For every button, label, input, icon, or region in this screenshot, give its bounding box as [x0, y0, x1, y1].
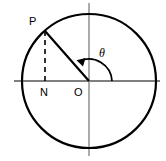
angle-arrowhead	[77, 58, 86, 67]
label-angle-theta: θ	[99, 46, 105, 60]
label-origin-o: O	[74, 86, 83, 98]
angle-arc	[80, 59, 113, 81]
unit-circle-diagram: P N O θ	[0, 0, 166, 161]
label-point-n: N	[40, 86, 48, 98]
radius-segment-op	[45, 31, 89, 81]
label-point-p: P	[29, 15, 36, 27]
geometry-figure: P N O θ	[0, 0, 166, 161]
